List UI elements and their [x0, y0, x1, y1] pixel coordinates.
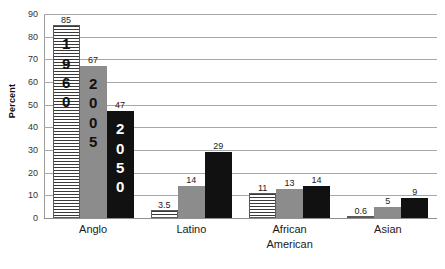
bar-latino-1960[interactable]: 3.5	[151, 210, 178, 218]
bar-asian-2050[interactable]: 9	[401, 198, 428, 218]
y-axis-tick-70: 70	[12, 55, 38, 64]
y-axis-tick-50: 50	[12, 100, 38, 109]
bar-value-label: 47	[115, 101, 125, 110]
y-axis-tick-60: 60	[12, 78, 38, 87]
bar-group-african-american: 111314	[249, 14, 330, 218]
gridline-0	[44, 218, 437, 219]
bar-group-asian: 0.659	[347, 14, 428, 218]
bar-value-label: 9	[412, 188, 417, 197]
bar-group-latino: 3.51429	[151, 14, 232, 218]
bar-value-label: 0.6	[355, 207, 368, 216]
bar-value-label: 67	[88, 56, 98, 65]
y-axis-tick-0: 0	[12, 214, 38, 223]
plot-area: 8519606720054720503.514291113140.659	[44, 14, 437, 218]
bar-inline-digit: 1	[54, 34, 79, 53]
bar-groups: 8519606720054720503.514291113140.659	[44, 14, 437, 218]
x-axis-category-labels: AngloLatinoAfricanAmericanAsian	[44, 222, 437, 268]
bar-anglo-2005[interactable]: 672005	[80, 66, 107, 218]
bar-value-label: 14	[312, 176, 322, 185]
bar-inline-digit: 5	[80, 132, 107, 151]
x-axis-label-line: Anglo	[44, 222, 142, 237]
x-axis-label-anglo: Anglo	[44, 222, 142, 237]
bar-value-label: 11	[258, 184, 267, 193]
bar-inline-year-label: 2050	[107, 119, 134, 196]
bar-inline-digit: 2	[80, 74, 107, 93]
bar-value-label: 3.5	[158, 201, 171, 210]
x-axis-label-line: Asian	[339, 222, 437, 237]
x-axis-label-line: Latino	[142, 222, 240, 237]
bar-african-american-1960[interactable]: 11	[249, 193, 276, 218]
x-axis-label-line: American	[241, 237, 339, 252]
bar-inline-digit: 0	[80, 93, 107, 112]
bar-inline-digit: 0	[107, 177, 134, 196]
bar-african-american-2005[interactable]: 13	[276, 189, 303, 218]
x-axis-label-latino: Latino	[142, 222, 240, 237]
bar-chart: Percent 9080706050403020100 851960672005…	[0, 0, 445, 269]
y-axis-tick-10: 10	[12, 191, 38, 200]
bar-inline-digit: 0	[107, 139, 134, 158]
x-axis-label-african-american: AfricanAmerican	[241, 222, 339, 252]
y-axis-tick-20: 20	[12, 168, 38, 177]
y-axis-tick-40: 40	[12, 123, 38, 132]
bar-inline-digit: 9	[54, 54, 79, 73]
bar-latino-2005[interactable]: 14	[178, 186, 205, 218]
bar-african-american-2050[interactable]: 14	[303, 186, 330, 218]
y-axis-tick-80: 80	[12, 32, 38, 41]
bar-anglo-1960[interactable]: 851960	[53, 25, 80, 218]
bar-inline-year-label: 1960	[54, 34, 79, 111]
bar-inline-year-label: 2005	[80, 74, 107, 151]
bar-inline-digit: 5	[107, 158, 134, 177]
bar-anglo-2050[interactable]: 472050	[107, 111, 134, 218]
bar-asian-1960[interactable]: 0.6	[347, 216, 374, 218]
y-axis-tick-30: 30	[12, 146, 38, 155]
bar-asian-2005[interactable]: 5	[374, 207, 401, 218]
bar-value-label: 14	[186, 176, 196, 185]
bar-latino-2050[interactable]: 29	[205, 152, 232, 218]
bar-group-anglo: 851960672005472050	[53, 14, 134, 218]
bar-value-label: 85	[61, 16, 71, 25]
y-axis-tick-90: 90	[12, 10, 38, 19]
bar-inline-digit: 0	[80, 113, 107, 132]
bar-inline-digit: 0	[54, 92, 79, 111]
y-axis-tick-labels: 9080706050403020100	[8, 0, 38, 269]
bar-value-label: 29	[213, 142, 223, 151]
x-axis-label-line: African	[241, 222, 339, 237]
x-axis-label-asian: Asian	[339, 222, 437, 237]
bar-value-label: 5	[385, 197, 390, 206]
bar-value-label: 13	[285, 179, 295, 188]
bar-inline-digit: 6	[54, 73, 79, 92]
bar-inline-digit: 2	[107, 119, 134, 138]
